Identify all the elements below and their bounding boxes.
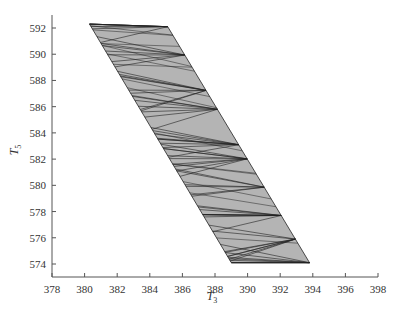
x-tick-label: 380: [76, 283, 93, 295]
x-tick-label: 392: [272, 283, 289, 295]
y-tick-label: 592: [30, 22, 47, 34]
x-tick-label: 394: [305, 283, 322, 295]
y-tick-label: 590: [30, 48, 47, 60]
y-tick-label: 582: [30, 153, 47, 165]
y-tick-label: 578: [30, 206, 47, 218]
x-tick-label: 384: [142, 283, 159, 295]
feasible-region: [89, 24, 309, 263]
x-tick-label: 396: [337, 283, 354, 295]
y-axis-label: T5: [7, 145, 23, 156]
x-tick-label: 398: [370, 283, 387, 295]
x-tick-label: 390: [239, 283, 256, 295]
x-tick-label: 382: [109, 283, 126, 295]
y-tick-label: 574: [30, 258, 47, 270]
y-tick-label: 580: [30, 179, 47, 191]
y-tick-label: 576: [30, 232, 47, 244]
y-tick-label: 586: [30, 101, 47, 113]
chart: 3783803823843863883903923943963985745765…: [0, 0, 403, 322]
y-tick-label: 588: [30, 74, 47, 86]
x-tick-label: 386: [174, 283, 191, 295]
y-tick-label: 584: [30, 127, 47, 139]
x-tick-label: 378: [44, 283, 61, 295]
